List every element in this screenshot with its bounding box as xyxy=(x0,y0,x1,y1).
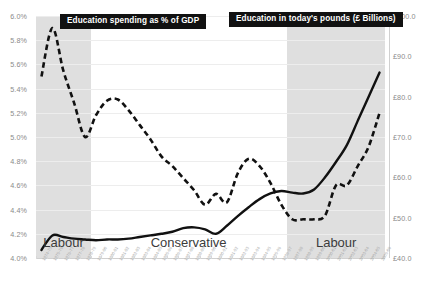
x-tickmark xyxy=(287,256,288,259)
x-tickmark xyxy=(232,256,233,259)
y-left-tick: 4.0% xyxy=(10,254,27,263)
y-axis-right: £40.0£50.0£60.0£70.0£80.0£90.0£100.0 xyxy=(390,0,435,305)
x-tickmark xyxy=(178,256,179,259)
x-tickmark xyxy=(309,256,310,259)
x-tickmark xyxy=(134,256,135,259)
x-tickmark xyxy=(36,256,37,259)
y-left-tick: 5.6% xyxy=(10,60,27,69)
x-tickmark xyxy=(243,256,244,259)
band-label-labour-2: Labour xyxy=(316,235,356,250)
x-tickmark xyxy=(298,256,299,259)
y-left-tick: 5.4% xyxy=(10,84,27,93)
y-left-tick: 6.0% xyxy=(10,12,27,21)
x-tickmark xyxy=(156,256,157,259)
y-left-tick: 5.2% xyxy=(10,108,27,117)
callout-gdp-share: Education spending as % of GDP xyxy=(60,14,206,29)
x-tickmark xyxy=(145,256,146,259)
series-line-2 xyxy=(41,72,379,249)
y-right-tick: £60.0 xyxy=(393,173,412,182)
y-left-tick: 4.6% xyxy=(10,181,27,190)
plot-area xyxy=(36,16,385,258)
x-tickmark xyxy=(112,256,113,259)
y-left-tick: 4.2% xyxy=(10,229,27,238)
x-tickmark xyxy=(341,256,342,259)
chart-container: 4.0%4.2%4.4%4.6%4.8%5.0%5.2%5.4%5.6%5.8%… xyxy=(0,0,437,305)
right-axis-line xyxy=(389,16,390,258)
y-right-tick: £50.0 xyxy=(393,213,412,222)
x-tickmark xyxy=(69,256,70,259)
x-tickmark xyxy=(91,256,92,259)
callout-todays-pounds: Education in today's pounds (£ Billions) xyxy=(229,12,403,27)
y-left-tick: 4.4% xyxy=(10,205,27,214)
series-lines xyxy=(36,16,385,258)
series-line-1 xyxy=(41,28,379,220)
x-tickmark xyxy=(47,256,48,259)
x-tickmark xyxy=(374,256,375,259)
x-axis-tick-labels: 1974-751975-761976-771977-781978-791979-… xyxy=(36,259,385,305)
x-tickmark xyxy=(167,256,168,259)
x-tickmark xyxy=(254,256,255,259)
x-tickmark xyxy=(221,256,222,259)
x-tickmark xyxy=(265,256,266,259)
x-tickmark xyxy=(189,256,190,259)
x-tickmark xyxy=(276,256,277,259)
band-label-labour-1: Labour xyxy=(43,235,83,250)
x-tickmark xyxy=(320,256,321,259)
x-tickmark xyxy=(200,256,201,259)
y-right-tick: £40.0 xyxy=(393,254,412,263)
x-tickmark xyxy=(58,256,59,259)
y-left-tick: 5.8% xyxy=(10,36,27,45)
x-tickmark xyxy=(363,256,364,259)
x-tickmark xyxy=(330,256,331,259)
y-right-tick: £70.0 xyxy=(393,133,412,142)
x-tickmark xyxy=(80,256,81,259)
y-left-tick: 5.0% xyxy=(10,133,27,142)
y-left-tick: 4.8% xyxy=(10,157,27,166)
y-right-tick: £90.0 xyxy=(393,52,412,61)
band-label-conservative: Conservative xyxy=(151,235,227,250)
x-tickmark xyxy=(211,256,212,259)
x-tickmark xyxy=(123,256,124,259)
x-tickmark xyxy=(101,256,102,259)
y-right-tick: £80.0 xyxy=(393,92,412,101)
x-tickmark xyxy=(352,256,353,259)
y-axis-left: 4.0%4.2%4.4%4.6%4.8%5.0%5.2%5.4%5.6%5.8%… xyxy=(0,0,27,305)
